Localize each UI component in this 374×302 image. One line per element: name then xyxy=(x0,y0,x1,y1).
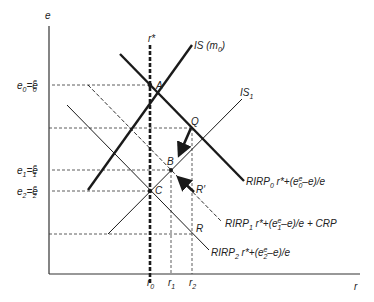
label-r-prime: R′ xyxy=(196,184,206,195)
is1-curve xyxy=(108,99,242,234)
point-b xyxy=(169,168,173,172)
x-tick-r0: r0 xyxy=(147,277,154,290)
x-tick-r1: r1 xyxy=(168,277,175,290)
label-r: R xyxy=(196,223,203,234)
r-star-label: r* xyxy=(148,33,156,44)
label-c: C xyxy=(155,185,163,196)
label-b: B xyxy=(167,156,174,167)
guide-lines xyxy=(49,85,192,274)
y-axis-label: e xyxy=(45,10,51,21)
y-tick-e0: e0=ee0 xyxy=(17,78,38,93)
y-tick-e2: e2=ee2 xyxy=(17,184,38,199)
is0-curve xyxy=(88,45,192,190)
label-a: A xyxy=(155,80,163,91)
label-q: Q xyxy=(191,116,199,127)
y-tick-e1: e1=ee1 xyxy=(17,163,38,178)
rirp1-curve xyxy=(88,85,222,222)
rirp1-label: RIRP1 r*+(ee1–e)/e + CRP xyxy=(225,217,337,231)
is-rirp-diagram: e r r* A Q B C R′ R e0=ee0 e1=ee1 e2=ee2… xyxy=(0,0,374,302)
point-c xyxy=(148,189,152,193)
x-axis-label: r xyxy=(354,281,358,292)
x-tick-r2: r2 xyxy=(189,277,196,290)
is0-label: IS (m0) xyxy=(194,40,225,53)
is1-label: IS1 xyxy=(240,87,253,100)
rirp2-label: RIRP2 r*+(ee2–e)/e xyxy=(211,246,291,260)
rirp0-label: RIRP0 r*+(ee0–e)/e xyxy=(246,175,326,189)
point-a xyxy=(148,83,152,87)
rirp2-curve xyxy=(67,105,209,250)
arrow-q-to-b-icon xyxy=(180,128,191,153)
